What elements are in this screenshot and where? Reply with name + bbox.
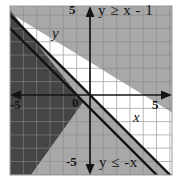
y-axis-tick-label-top: 5 — [69, 3, 76, 16]
coordinate-plane-svg — [0, 0, 177, 181]
y-axis-label: y — [52, 26, 59, 41]
inequality-label-top: y ≥ x - 1 — [98, 3, 153, 18]
inequality-graph-figure: y ≥ x - 1 y ≤ -x 5 -5 -5 5 0 x y — [0, 0, 177, 181]
x-axis-tick-label-left: -5 — [10, 98, 21, 111]
origin-label: 0 — [72, 96, 79, 109]
inequality-label-bottom: y ≤ -x — [99, 155, 138, 170]
x-axis-tick-label-right: 5 — [152, 98, 159, 111]
x-axis-label: x — [133, 110, 140, 125]
y-axis-tick-label-bottom: -5 — [66, 155, 77, 168]
